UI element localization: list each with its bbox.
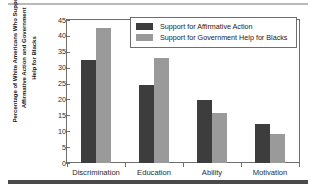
bar — [197, 100, 212, 163]
y-axis-title: Percentage of White Americans Who Suppor… — [2, 0, 46, 128]
bottom-divider-rule — [8, 180, 308, 184]
bar-chart-figure: Percentage of White Americans Who Suppor… — [0, 0, 316, 193]
x-axis-tick-label: Motivation — [253, 168, 288, 177]
y-axis-title-line-3: Help for Blacks — [29, 36, 38, 80]
legend-label-affirmative-action: Support for Affirmative Action — [160, 23, 253, 31]
y-axis-tick-label: 5 — [42, 143, 66, 152]
chart-legend: Support for Affirmative Action Support f… — [130, 17, 297, 48]
legend-item-government-help: Support for Government Help for Blacks — [136, 32, 291, 43]
bar — [255, 124, 270, 163]
y-axis-tick-label: 10 — [42, 127, 66, 136]
y-axis-tick-label: 35 — [42, 47, 66, 56]
legend-item-affirmative-action: Support for Affirmative Action — [136, 21, 291, 32]
y-axis-title-line-1: Percentage of White Americans Who Suppor… — [10, 0, 19, 123]
y-axis-tick-label: 30 — [42, 63, 66, 72]
x-axis-tick-label: Ability — [202, 168, 222, 177]
x-axis-tick-label: Discrimination — [72, 168, 120, 177]
y-axis-tick-label: 0 — [42, 159, 66, 168]
bar-group — [81, 20, 111, 163]
x-axis-tick-mark — [125, 163, 126, 167]
y-axis-tick-label: 45 — [42, 16, 66, 25]
bar — [81, 60, 96, 163]
y-axis-title-line-2: Affirmative Action and Government — [19, 8, 28, 109]
bar — [270, 134, 285, 163]
bar — [212, 113, 227, 163]
x-axis-tick-mark — [241, 163, 242, 167]
bar — [96, 28, 111, 163]
x-axis-tick-label: Education — [137, 168, 171, 177]
y-axis-tick-label: 15 — [42, 111, 66, 120]
x-axis-tick-mark — [183, 163, 184, 167]
x-axis-tick-mark — [67, 163, 68, 167]
x-axis-tick-mark — [299, 163, 300, 167]
legend-swatch-affirmative-action — [136, 23, 153, 30]
legend-swatch-government-help — [136, 34, 153, 41]
y-axis-tick-label: 25 — [42, 79, 66, 88]
y-axis-tick-label: 20 — [42, 95, 66, 104]
y-axis-tick-label: 40 — [42, 31, 66, 40]
bar — [139, 85, 154, 163]
legend-label-government-help: Support for Government Help for Blacks — [160, 34, 287, 42]
bar — [154, 58, 169, 164]
